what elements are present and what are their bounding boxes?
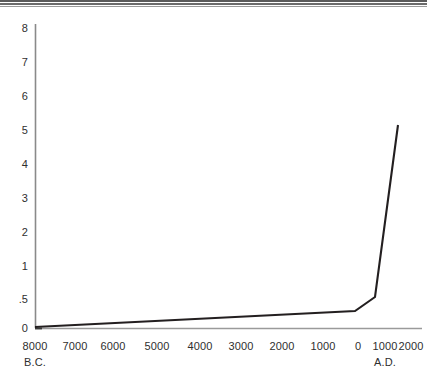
x-tick-label-2000ad: 2000 [391, 341, 427, 352]
x-tick-label-7000bc: 7000 [55, 341, 95, 352]
x-era-label-bc: B.C. [15, 357, 55, 368]
y-tick-label-8: 8 [4, 23, 28, 34]
y-tick-label-7: 7 [4, 57, 28, 68]
x-tick-label-1000bc: 1000 [303, 341, 343, 352]
x-tick-label-6000bc: 6000 [93, 341, 133, 352]
plot-area [0, 0, 427, 370]
y-tick-label-4: 4 [4, 159, 28, 170]
x-tick-label-8000bc: 8000 [15, 341, 55, 352]
y-tick-label-0: 0 [4, 323, 28, 334]
y-tick-label-1: 1 [4, 261, 28, 272]
y-tick-label-3: 3 [4, 193, 28, 204]
population-curve [35, 125, 398, 327]
x-tick-label-5000bc: 5000 [137, 341, 177, 352]
x-era-label-ad: A.D. [355, 357, 415, 368]
y-tick-label-5: 5 [4, 125, 28, 136]
chart-figure: 8 7 6 5 4 3 2 1 .5 0 8000 7000 6000 5000… [0, 0, 427, 370]
y-tick-label-6: 6 [4, 91, 28, 102]
y-tick-label-2: 2 [4, 227, 28, 238]
x-tick-label-3000bc: 3000 [221, 341, 261, 352]
x-tick-label-4000bc: 4000 [180, 341, 220, 352]
x-tick-label-2000bc: 2000 [262, 341, 302, 352]
y-tick-label-half: .5 [4, 294, 28, 305]
